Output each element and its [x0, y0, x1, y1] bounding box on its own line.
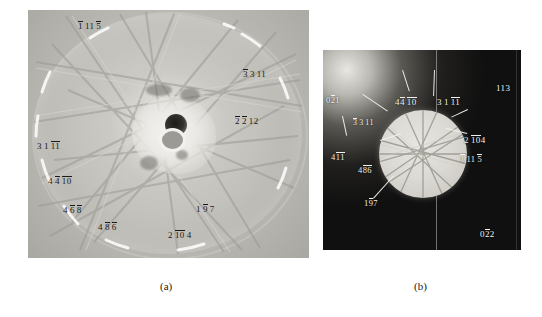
- panel-b-diffraction-pattern: [323, 50, 521, 250]
- miller-index-digit: 11: [85, 21, 94, 31]
- miller-index-digit: 4: [400, 98, 405, 107]
- miller-index-digit: 2: [168, 230, 173, 240]
- miller-index-digit: 3: [243, 70, 248, 79]
- miller-index-digit: 4: [187, 230, 192, 240]
- miller-index-digit: 2: [242, 117, 247, 126]
- miller-index-label: 3311: [243, 70, 266, 79]
- panel-a-beam-ring: [159, 128, 186, 152]
- miller-index-digit: 3: [359, 118, 363, 127]
- miller-index-label: 411: [331, 153, 345, 162]
- miller-index-label: 4410: [48, 177, 72, 186]
- miller-index-digit: 1: [44, 141, 49, 151]
- miller-index-label: 1115: [460, 155, 482, 164]
- miller-index-label: 021: [326, 96, 340, 105]
- miller-index-digit: 11: [451, 98, 460, 107]
- miller-index-digit: 9: [203, 205, 208, 214]
- miller-index-digit: 1: [335, 95, 340, 105]
- miller-index-digit: 4: [481, 135, 486, 145]
- miller-index-digit: 1: [340, 153, 345, 162]
- panel-b-kikuchi-lines: [379, 110, 467, 198]
- miller-index-digit: 9: [369, 199, 374, 208]
- miller-index-digit: 10: [471, 136, 481, 145]
- miller-index-label: 468: [63, 206, 82, 215]
- miller-index-digit: 11: [365, 118, 374, 127]
- miller-index-digit: 4: [98, 222, 103, 232]
- panel-a-diffraction-pattern: [28, 10, 309, 258]
- panel-b-guide-line-right: [516, 50, 517, 250]
- miller-index-digit: 8: [105, 223, 110, 232]
- miller-index-digit: 2: [464, 135, 469, 145]
- panel-a-artifact-2: [180, 88, 200, 102]
- miller-index-label: 197: [364, 199, 378, 208]
- miller-index-label: 197: [196, 205, 215, 214]
- miller-index-digit: 1: [444, 97, 449, 107]
- panel-a-caption: (a): [160, 280, 172, 292]
- miller-index-digit: 7: [373, 198, 378, 208]
- miller-index-label: 3111: [437, 98, 460, 107]
- miller-index-digit: 6: [112, 223, 117, 232]
- miller-index-label: 486: [98, 223, 117, 232]
- miller-index-label: 1115: [78, 22, 101, 31]
- miller-index-digit: 2: [235, 117, 240, 126]
- miller-index-label: 022: [480, 230, 495, 239]
- miller-index-digit: 5: [96, 22, 101, 31]
- miller-index-digit: 1: [196, 204, 201, 214]
- miller-index-digit: 3: [250, 69, 255, 79]
- miller-index-digit: 3: [353, 119, 357, 127]
- miller-index-digit: 1: [460, 155, 465, 164]
- miller-index-digit: 113: [496, 83, 510, 93]
- miller-index-digit: 10: [407, 98, 417, 107]
- miller-index-digit: 2: [485, 230, 490, 239]
- miller-index-digit: 4: [63, 205, 68, 215]
- miller-index-digit: 3: [437, 97, 442, 107]
- panel-a-artifact-1: [146, 84, 172, 96]
- miller-index-digit: 4: [48, 176, 53, 186]
- miller-index-label: 3111: [37, 142, 60, 151]
- miller-index-digit: 3: [37, 141, 42, 151]
- panel-b-bright-disc: [379, 110, 467, 198]
- miller-index-label: 2212: [235, 117, 259, 126]
- miller-index-digit: 7: [210, 204, 215, 214]
- miller-index-digit: 2: [331, 96, 336, 105]
- miller-index-label: 486: [358, 166, 372, 175]
- miller-index-digit: 11: [51, 142, 60, 151]
- miller-index-digit: 10: [62, 177, 72, 186]
- panel-b-caption: (b): [414, 280, 427, 292]
- miller-index-digit: 12: [249, 116, 259, 126]
- miller-index-digit: 6: [367, 166, 372, 175]
- miller-index-label: 2104: [168, 231, 192, 240]
- miller-index-digit: 10: [175, 231, 185, 240]
- miller-index-label: 113: [496, 84, 510, 93]
- miller-index-digit: 2: [490, 229, 495, 239]
- miller-index-digit: 6: [70, 206, 75, 215]
- miller-index-label: 4410: [395, 98, 417, 107]
- panel-a-artifact-3: [140, 156, 158, 170]
- figure-container: 1115 3311 2212 3111 4410 468 486 197 210…: [0, 0, 542, 317]
- miller-index-digit: 11: [257, 69, 266, 79]
- miller-index-digit: 11: [467, 154, 476, 164]
- miller-index-label: 3311: [353, 119, 374, 127]
- miller-index-digit: 8: [77, 206, 82, 215]
- miller-index-digit: 4: [55, 177, 60, 186]
- miller-index-digit: 5: [477, 155, 482, 164]
- miller-index-digit: 1: [78, 22, 83, 31]
- panel-a-artifact-4: [176, 150, 188, 160]
- miller-index-label: 2104: [464, 136, 486, 145]
